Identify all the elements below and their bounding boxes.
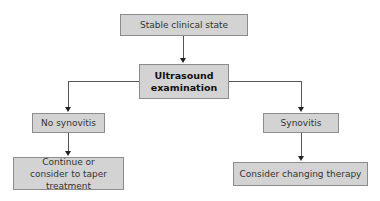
connector-synovitis-change <box>301 133 302 157</box>
node-label: Stable clinical state <box>140 19 228 31</box>
connector-start-exam <box>183 36 184 59</box>
arrowhead-icon <box>180 58 186 63</box>
node-no-synovitis: No synovitis <box>32 113 105 133</box>
node-label: Ultrasound examination <box>146 70 222 94</box>
node-label: Consider changing therapy <box>240 168 362 180</box>
arrowhead-icon <box>65 107 71 112</box>
node-label: Synovitis <box>281 117 322 129</box>
arrowhead-icon <box>298 107 304 112</box>
node-continue-or-taper: Continue or consider to taper treatment <box>13 157 124 190</box>
cropped-caption-fragment <box>0 196 380 201</box>
connector-no-synovitis-continue <box>68 133 69 152</box>
connector-left-down <box>68 81 69 108</box>
node-ultrasound-examination: Ultrasound examination <box>139 64 229 99</box>
node-stable-clinical-state: Stable clinical state <box>120 14 248 36</box>
node-consider-changing-therapy: Consider changing therapy <box>233 162 368 186</box>
connector-right-down <box>301 81 302 108</box>
node-label: No synovitis <box>41 117 96 129</box>
connector-exam-left <box>68 81 139 82</box>
node-label: Continue or consider to taper treatment <box>22 156 115 192</box>
connector-exam-right <box>229 81 301 82</box>
arrowhead-icon <box>298 156 304 161</box>
node-synovitis: Synovitis <box>263 113 339 133</box>
